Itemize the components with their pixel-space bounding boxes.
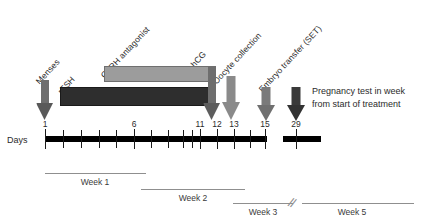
day-number-12: 12 xyxy=(212,119,221,129)
day-number-11: 11 xyxy=(196,119,205,129)
pregnancy-test-note-line2: from start of treatment xyxy=(312,98,405,111)
week-1-label: Week 1 xyxy=(81,177,110,187)
arrow-menses-head xyxy=(36,103,53,120)
ivf-treatment-timeline-diagram: Menses rFSH GnRH antagonist hCG Oocyte c… xyxy=(0,0,426,224)
axis-tick-7 xyxy=(151,130,152,148)
day-number-15: 15 xyxy=(260,119,269,129)
axis-tick-4 xyxy=(99,130,100,148)
axis-label-days: Days xyxy=(7,135,28,145)
axis-tick-29 xyxy=(296,129,297,149)
arrow-oocyte-collection xyxy=(222,76,240,120)
axis-tick-2 xyxy=(63,130,64,148)
week-1-line xyxy=(45,173,146,174)
axis-tick-1 xyxy=(45,129,46,149)
arrow-embryo-shaft xyxy=(262,87,271,106)
week-5-line xyxy=(302,203,414,204)
arrow-oocyte-shaft xyxy=(227,76,236,103)
axis-tick-11 xyxy=(200,129,201,149)
axis-tick-14 xyxy=(250,130,251,148)
day-number-6: 6 xyxy=(132,119,137,129)
week-2-line xyxy=(141,189,245,190)
axis-tick-8 xyxy=(168,130,169,148)
pregnancy-test-note-line1: Pregnancy test in week xyxy=(312,85,405,98)
week-3-line xyxy=(233,203,293,204)
axis-break-icon: // xyxy=(287,195,297,209)
arrow-hcg-shaft xyxy=(208,66,216,104)
arrow-hcg xyxy=(203,66,220,120)
label-embryo-transfer: Embryo transfer (SET) xyxy=(257,23,324,94)
arrow-embryo-transfer xyxy=(257,87,275,121)
day-number-29: 29 xyxy=(291,119,300,129)
day-number-1: 1 xyxy=(43,119,48,129)
axis-tick-10 xyxy=(192,130,193,148)
day-number-13: 13 xyxy=(229,119,238,129)
axis-tick-13 xyxy=(234,129,235,149)
axis-tick-3 xyxy=(81,130,82,148)
axis-tick-5 xyxy=(116,130,117,148)
week-3-label: Week 3 xyxy=(249,207,278,217)
arrow-hcg-head xyxy=(203,103,220,120)
bar-gnrh-antagonist xyxy=(104,66,216,82)
axis-tick-12 xyxy=(217,129,218,149)
axis-tick-6 xyxy=(134,129,135,149)
arrow-menses-shaft xyxy=(41,80,49,104)
week-2-label: Week 2 xyxy=(179,193,208,203)
bar-rfsh xyxy=(60,87,212,106)
arrow-pregnancy-test xyxy=(287,87,305,121)
arrow-pregnancy-shaft xyxy=(292,87,301,106)
arrow-oocyte-head xyxy=(222,102,240,120)
axis-tick-15 xyxy=(265,129,266,149)
week-5-label: Week 5 xyxy=(338,207,367,217)
axis-tick-9 xyxy=(183,130,184,148)
pregnancy-test-note: Pregnancy test in week from start of tre… xyxy=(312,85,405,111)
timeline-axis-week5-segment xyxy=(283,136,321,142)
arrow-menses xyxy=(36,80,53,120)
